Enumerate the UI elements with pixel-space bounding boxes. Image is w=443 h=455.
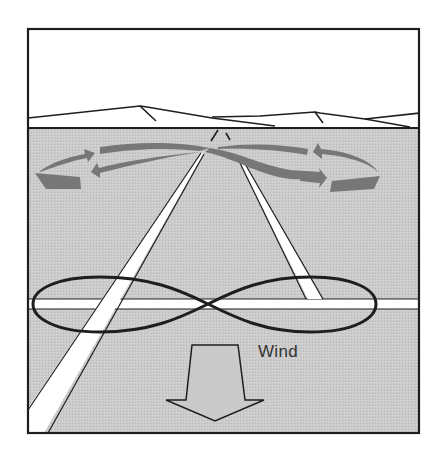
wind-label: Wind xyxy=(258,342,298,362)
figure-eight-wind-diagram xyxy=(0,0,443,455)
sky xyxy=(28,29,419,128)
runway-crosswind xyxy=(28,299,419,309)
